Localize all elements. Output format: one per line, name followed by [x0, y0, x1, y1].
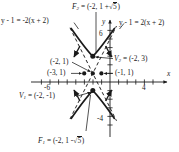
center-point-label: (-2, 1): [50, 58, 68, 65]
x-tick-4: 4: [142, 85, 146, 92]
focus-upper-sub: 2: [77, 6, 80, 11]
focus-lower-label: F1 = (-2, 1 -√5): [38, 136, 84, 145]
vertex-upper-label: V2 = (-2, 3): [114, 55, 147, 63]
focus-upper-label: F2 = (-2, 1 +√5): [72, 2, 120, 11]
leader-focus-lower: [86, 95, 91, 131]
asymptote-right-label: y - 1 = 2(x + 2): [119, 19, 164, 26]
y-tick-6: 6: [99, 31, 103, 38]
asymptote-left-label: y - 1 = -2(x + 2): [1, 17, 49, 24]
plotted-points: [82, 54, 103, 93]
y-tick-neg4: -4: [97, 116, 103, 123]
box-left-point-label: (-3, 1): [47, 69, 65, 76]
focus-lower-sub: 1: [43, 140, 46, 145]
x-axis-label: x: [167, 70, 170, 77]
point-vertex-lower: [90, 88, 95, 93]
leader-center: [72, 62, 91, 72]
vertex-upper-eq: = (-2, 3): [123, 54, 148, 63]
hyperbola-figure: F2 = (-2, 1 +√5) y - 1 = -2(x + 2) y - 1…: [0, 0, 179, 152]
point-box-left: [82, 71, 86, 75]
vertex-lower-sub: 1: [24, 95, 27, 100]
point-box-right: [99, 71, 103, 75]
vertex-lower-eq: = (-2, -1): [28, 91, 55, 100]
vertex-lower-label: V1 = (-2, -1): [19, 92, 55, 100]
point-center: [91, 71, 95, 75]
focus-upper-eq: = (-2, 1 +: [81, 2, 109, 11]
focus-upper-close: ): [117, 2, 119, 11]
point-vertex-upper: [90, 54, 95, 59]
box-right-point-label: (-1, 1): [115, 69, 133, 76]
leader-asymptote-left: [74, 23, 79, 29]
focus-lower-eq: = (-2, 1 -: [47, 136, 73, 145]
vertex-upper-sub: 2: [119, 58, 122, 63]
focus-lower-close: ): [82, 136, 84, 145]
y-axis-label: y: [102, 18, 105, 25]
